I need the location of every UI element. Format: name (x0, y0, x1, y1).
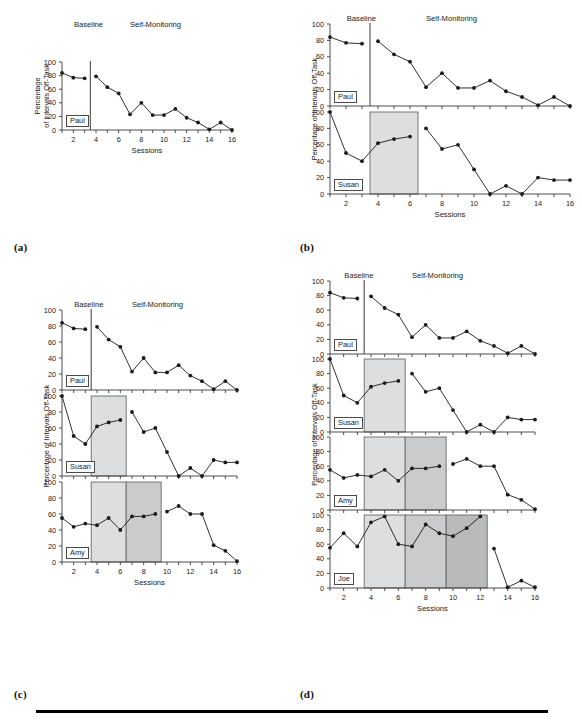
data-point-marker (142, 430, 146, 434)
y-tick-label: 40 (302, 320, 324, 329)
data-point-marker (376, 39, 380, 43)
data-point-marker (83, 327, 87, 331)
data-point-marker (533, 585, 537, 589)
y-tick-label: 100 (302, 355, 324, 364)
data-point-marker (376, 141, 380, 145)
data-line-segment (97, 327, 237, 390)
subplot-susan (329, 358, 558, 445)
data-point-marker (478, 464, 482, 468)
y-tick-label: 60 (302, 52, 324, 61)
data-point-marker (492, 464, 496, 468)
data-point-marker (369, 520, 373, 524)
phase-label-self-monitoring: Self-Monitoring (132, 300, 183, 309)
data-point-marker (117, 91, 121, 95)
y-tick-label: 40 (302, 69, 324, 78)
data-point-marker (235, 559, 239, 563)
data-point-marker (188, 374, 192, 378)
y-tick-label: 80 (34, 71, 56, 80)
data-point-marker (177, 504, 181, 508)
data-point-marker (478, 423, 482, 427)
panel-letter-c: (c) (14, 688, 27, 700)
data-point-marker (383, 468, 387, 472)
data-point-marker (472, 168, 476, 172)
data-point-marker (107, 421, 111, 425)
phase-label-baseline: Baseline (344, 271, 373, 280)
data-point-marker (153, 371, 157, 375)
data-point-marker (492, 547, 496, 551)
subplot-paul (329, 23, 582, 119)
data-point-marker (165, 510, 169, 514)
y-tick-label: 40 (302, 554, 324, 563)
subplot-amy (329, 436, 558, 523)
data-point-marker (424, 466, 428, 470)
data-line-segment (412, 374, 535, 432)
phase-shade-light (91, 482, 126, 562)
data-point-marker (451, 408, 455, 412)
data-point-marker (472, 86, 476, 90)
phase-shade-dark (446, 515, 487, 588)
data-point-marker (519, 498, 523, 502)
data-point-marker (451, 336, 455, 340)
data-point-marker (506, 493, 510, 497)
data-point-marker (328, 468, 332, 472)
data-point-marker (328, 110, 332, 114)
data-point-marker (118, 528, 122, 532)
panel-letter-a: (a) (14, 241, 27, 253)
subject-tag-susan: Susan (66, 461, 95, 473)
data-point-marker (162, 113, 166, 117)
data-point-marker (328, 546, 332, 550)
y-tick-label: 80 (302, 291, 324, 300)
y-tick-label: 100 (34, 478, 56, 487)
data-point-marker (342, 394, 346, 398)
data-point-marker (552, 178, 556, 182)
data-point-marker (212, 543, 216, 547)
data-point-marker (520, 192, 524, 196)
data-point-marker (107, 516, 111, 520)
y-tick-label: 20 (302, 413, 324, 422)
data-point-marker (408, 135, 412, 139)
data-point-marker (344, 41, 348, 45)
data-point-marker (188, 512, 192, 516)
data-point-marker (83, 442, 87, 446)
y-tick-label: 40 (302, 157, 324, 166)
y-tick-label: 0 (34, 558, 56, 567)
data-point-marker (118, 345, 122, 349)
y-tick-label: 100 (302, 277, 324, 286)
subject-tag-amy: Amy (334, 495, 357, 507)
data-line-segment (132, 412, 237, 476)
data-point-marker (410, 372, 414, 376)
data-point-marker (488, 79, 492, 83)
y-tick-label: 100 (34, 392, 56, 401)
data-point-marker (60, 321, 64, 325)
subplot-paul (61, 61, 255, 143)
data-point-marker (410, 544, 414, 548)
data-point-marker (437, 464, 441, 468)
data-point-marker (360, 159, 364, 163)
data-point-marker (342, 476, 346, 480)
data-point-marker (107, 338, 111, 342)
data-point-marker (369, 475, 373, 479)
y-tick-label: 40 (302, 476, 324, 485)
data-point-marker (185, 116, 189, 120)
data-point-marker (72, 525, 76, 529)
data-point-marker (456, 86, 460, 90)
data-point-marker (492, 430, 496, 434)
phase-label-baseline: Baseline (74, 300, 103, 309)
data-point-marker (219, 121, 223, 125)
data-point-marker (230, 128, 234, 132)
data-point-marker (355, 473, 359, 477)
subject-tag-paul: Paul (66, 375, 89, 387)
y-tick-label: 0 (302, 190, 324, 199)
data-point-marker (369, 294, 373, 298)
data-point-marker (408, 60, 412, 64)
y-tick-label: 100 (34, 58, 56, 67)
data-point-marker (60, 71, 64, 75)
data-point-marker (519, 579, 523, 583)
data-line-segment (96, 76, 232, 130)
data-point-marker (130, 370, 134, 374)
phase-shade-light (364, 359, 405, 432)
data-point-marker (396, 313, 400, 317)
data-point-marker (165, 371, 169, 375)
data-point-marker (235, 461, 239, 465)
y-axis-label: Percentage of Intervals Off-Task (42, 310, 51, 562)
